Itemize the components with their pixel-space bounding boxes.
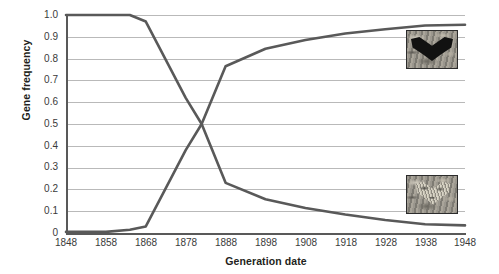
x-tick-1908: 1908 [286, 238, 326, 248]
x-tick-1948: 1948 [445, 238, 485, 248]
x-tick-1848: 1848 [46, 238, 86, 248]
x-tick-1928: 1928 [366, 238, 406, 248]
typica-moth-photo [406, 175, 458, 214]
x-tick-1938: 1938 [406, 238, 446, 248]
x-tick-1888: 1888 [206, 238, 246, 248]
x-tick-1878: 1878 [166, 238, 206, 248]
x-tick-1868: 1868 [126, 238, 166, 248]
x-tick-1858: 1858 [86, 238, 126, 248]
chart-figure: Gene frequency Generation date 1.0 0.9 0… [0, 0, 499, 274]
x-tick-1898: 1898 [246, 238, 286, 248]
x-tick-1918: 1918 [326, 238, 366, 248]
melanic-moth-photo [406, 30, 458, 69]
